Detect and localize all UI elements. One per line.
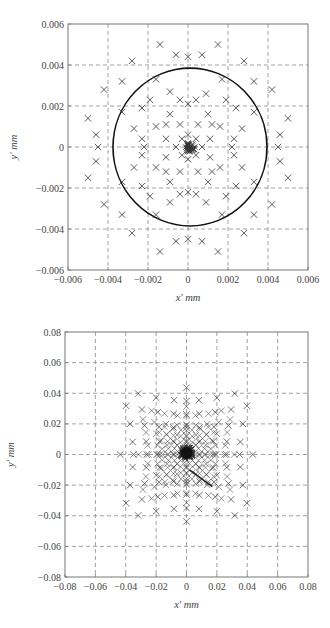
bottom-chart-ytick-label: 0 [56, 449, 61, 460]
spot-diagram-top-chart: −0.006−0.004−0.00200.0020.0040.006−0.006… [0, 0, 330, 318]
top-chart-ytick-label: 0.002 [42, 101, 65, 112]
top-chart-xtick-label: 0.006 [297, 274, 320, 285]
top-chart-xtick-label: 0.004 [257, 274, 280, 285]
top-chart-ytick-label: −0.002 [36, 183, 64, 194]
bottom-chart-xtick-label: −0.08 [53, 581, 76, 592]
top-chart-ytick-label: −0.006 [36, 265, 64, 276]
bottom-chart-ytick-label: 0.02 [44, 418, 62, 429]
bottom-chart-xtick-label: −0.06 [84, 581, 107, 592]
bottom-chart-center-blob [181, 447, 193, 459]
bottom-chart-ytick-label: −0.02 [38, 480, 61, 491]
bottom-chart-ytick-label: −0.04 [38, 510, 61, 521]
top-chart-tick-labels: −0.006−0.004−0.00200.0020.0040.006−0.006… [36, 19, 319, 286]
top-chart-ytick-label: −0.004 [36, 224, 64, 235]
top-chart-x-axis-label: x′ mm [175, 292, 201, 303]
bottom-chart-xtick-label: −0.04 [114, 581, 137, 592]
bottom-chart-x-axis-label: x′ mm [173, 599, 199, 610]
top-chart-xtick-label: −0.002 [134, 274, 162, 285]
bottom-chart-ytick-label: 0.06 [44, 357, 62, 368]
bottom-chart-y-axis-label: y′ mm [5, 442, 16, 468]
top-chart-xtick-label: −0.004 [94, 274, 122, 285]
top-chart-xtick-label: −0.006 [54, 274, 82, 285]
top-chart-xtick-label: 0.002 [217, 274, 240, 285]
top-chart-ytick-label: 0 [59, 142, 64, 153]
bottom-chart-ytick-label: −0.06 [38, 541, 61, 552]
top-chart-ytick-label: 0.006 [42, 19, 65, 30]
bottom-chart-ytick-label: 0.04 [44, 388, 62, 399]
bottom-chart-xtick-label: 0.02 [208, 581, 226, 592]
top-chart-xtick-label: 0 [186, 274, 191, 285]
top-chart-ytick-label: 0.004 [42, 60, 65, 71]
bottom-chart-xtick-label: 0.08 [299, 581, 317, 592]
bottom-chart-xtick-label: 0 [184, 581, 189, 592]
bottom-chart-ytick-label: 0.08 [44, 327, 62, 338]
top-chart-y-axis-label: y′ mm [8, 134, 19, 160]
bottom-chart-xtick-label: 0.06 [269, 581, 287, 592]
bottom-chart-xtick-label: −0.02 [145, 581, 168, 592]
bottom-chart-tick-labels: −0.08−0.06−0.04−0.0200.020.040.060.08−0.… [38, 327, 317, 593]
bottom-chart-xtick-label: 0.04 [239, 581, 257, 592]
bottom-chart-ytick-label: −0.08 [38, 572, 61, 583]
spot-diagram-bottom-chart: −0.08−0.06−0.04−0.0200.020.040.060.08−0.… [0, 318, 330, 628]
